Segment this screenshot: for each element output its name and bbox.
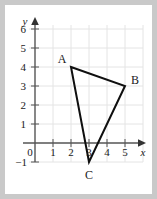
y-tick-label-4: 4: [21, 61, 27, 73]
coordinate-plane-plot: 6 5 4 3 2 1 −1 0 1 2 3 4 5 x y A B C: [5, 5, 152, 194]
y-tick-label-2: 2: [21, 99, 27, 111]
y-tick-label-1: 1: [21, 118, 27, 130]
x-tick-label-5: 5: [122, 146, 128, 158]
figure-panel: 6 5 4 3 2 1 −1 0 1 2 3 4 5 x y A B C: [5, 5, 152, 194]
y-tick-label-3: 3: [21, 80, 27, 92]
x-tick-label-1: 1: [50, 146, 56, 158]
y-axis-arrowhead: [31, 17, 39, 25]
y-axis: [31, 17, 39, 162]
y-tick-label-negative-1: −1: [15, 156, 27, 168]
triangle-abc: [71, 67, 125, 162]
x-tick-label-2: 2: [68, 146, 74, 158]
vertex-label-a: A: [58, 52, 67, 66]
x-tick-label-4: 4: [104, 146, 110, 158]
vertex-label-b: B: [131, 73, 139, 87]
vertex-label-c: C: [85, 168, 93, 182]
x-axis-label: x: [140, 146, 146, 158]
figure-root: 6 5 4 3 2 1 −1 0 1 2 3 4 5 x y A B C: [0, 0, 157, 199]
y-axis-label: y: [22, 15, 28, 27]
origin-label: 0: [27, 146, 33, 158]
y-tick-label-5: 5: [21, 42, 27, 54]
